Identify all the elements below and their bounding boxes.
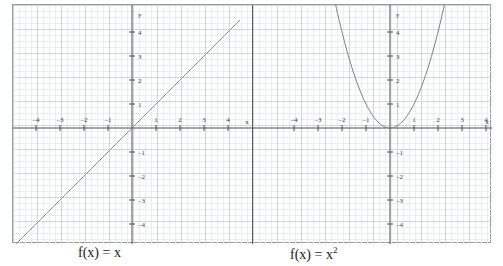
svg-text:3: 3 <box>460 116 464 124</box>
caption-quadratic: f(x) = x2 <box>290 245 337 263</box>
svg-text:–4: –4 <box>32 116 41 124</box>
svg-text:–2: –2 <box>338 116 347 124</box>
svg-text:2: 2 <box>178 116 182 124</box>
caption-linear-text: f(x) = x <box>78 245 121 260</box>
svg-text:–3: –3 <box>395 197 404 205</box>
svg-text:3: 3 <box>138 53 142 61</box>
figure-root: –4–3–2–11234–4–3–2–11234xy –4–3–2–11234–… <box>0 0 503 266</box>
svg-text:–4: –4 <box>290 116 299 124</box>
plot-svg-linear: –4–3–2–11234–4–3–2–11234xy <box>13 5 252 244</box>
svg-text:–2: –2 <box>137 173 146 181</box>
svg-text:x: x <box>245 118 249 126</box>
caption-linear: f(x) = x <box>78 245 121 261</box>
svg-text:–2: –2 <box>80 116 89 124</box>
svg-text:1: 1 <box>396 101 400 109</box>
svg-text:2: 2 <box>396 77 400 85</box>
svg-text:–4: –4 <box>137 221 146 229</box>
svg-text:–1: –1 <box>395 149 404 157</box>
svg-text:–1: –1 <box>137 149 146 157</box>
svg-text:1: 1 <box>154 116 158 124</box>
svg-text:1: 1 <box>412 116 416 124</box>
svg-text:–2: –2 <box>395 173 404 181</box>
svg-text:4: 4 <box>138 29 142 37</box>
caption-quadratic-exponent: 2 <box>333 245 338 255</box>
svg-text:2: 2 <box>138 77 142 85</box>
svg-text:–3: –3 <box>314 116 323 124</box>
svg-text:–3: –3 <box>137 197 146 205</box>
svg-text:4: 4 <box>396 29 400 37</box>
caption-quadratic-text: f(x) = x <box>290 247 333 262</box>
svg-text:4: 4 <box>226 116 230 124</box>
figure-frame: –4–3–2–11234–4–3–2–11234xy –4–3–2–11234–… <box>12 4 491 243</box>
svg-text:3: 3 <box>202 116 206 124</box>
svg-text:3: 3 <box>396 53 400 61</box>
svg-text:1: 1 <box>138 101 142 109</box>
svg-text:–3: –3 <box>56 116 65 124</box>
svg-text:–1: –1 <box>104 116 113 124</box>
plot-panel-quadratic: –4–3–2–11234–4–3–2–11234xy <box>253 5 492 244</box>
svg-text:–4: –4 <box>395 221 404 229</box>
svg-text:y: y <box>138 11 142 19</box>
svg-text:y: y <box>396 11 400 19</box>
svg-text:2: 2 <box>436 116 440 124</box>
svg-text:x: x <box>485 118 489 126</box>
plot-svg-quadratic: –4–3–2–11234–4–3–2–11234xy <box>253 5 492 244</box>
svg-text:–1: –1 <box>362 116 371 124</box>
plot-panel-linear: –4–3–2–11234–4–3–2–11234xy <box>13 5 252 244</box>
